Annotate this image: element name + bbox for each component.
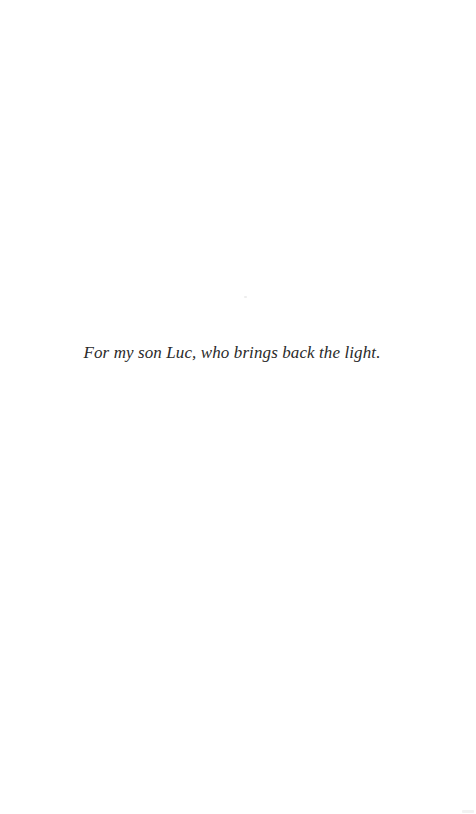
dedication-text: For my son Luc, who brings back the ligh…: [0, 343, 464, 363]
scan-speck: [244, 296, 247, 298]
scan-speck: [462, 810, 474, 813]
book-page: For my son Luc, who brings back the ligh…: [0, 0, 476, 814]
